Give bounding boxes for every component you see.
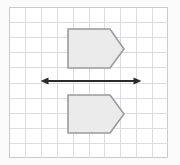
figure-canvas: [0, 0, 180, 165]
reflection-figure: [0, 0, 180, 165]
